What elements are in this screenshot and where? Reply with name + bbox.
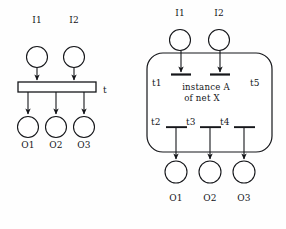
transition-t4-bar: [234, 126, 255, 128]
place-I2-left: [64, 47, 85, 68]
label-place-O3-left: O3: [77, 140, 91, 150]
label-transition-t3: t3: [186, 117, 196, 127]
label-place-O2-left: O2: [49, 140, 63, 150]
label-transition-t2: t2: [151, 117, 161, 127]
label-place-I2-left: I2: [69, 15, 79, 25]
transition-t1-bar: [171, 73, 191, 75]
label-transition-t: t: [103, 85, 107, 95]
transition-t3-bar: [200, 126, 221, 128]
transition-t5-bar: [210, 73, 230, 75]
label-transition-t5: t5: [250, 78, 260, 88]
place-O3-left: [74, 117, 95, 138]
place-O1-left: [18, 117, 39, 138]
subnet-caption-line2: of net X: [184, 93, 220, 104]
label-transition-t1: t1: [152, 78, 162, 88]
place-O3-right: [233, 161, 255, 183]
place-I2-right: [209, 30, 230, 51]
transition-t2-bar: [166, 126, 187, 128]
label-place-I2-right: I2: [214, 8, 224, 18]
figure-canvas: I1 I2 t O1 O2 O3 I1 I2 t1 t5 instance A …: [0, 0, 286, 229]
place-O1-right: [165, 161, 187, 183]
place-I1-left: [27, 47, 48, 68]
label-transition-t4: t4: [220, 117, 230, 127]
left-net-group: [18, 47, 97, 138]
label-place-I1-left: I1: [32, 15, 42, 25]
label-place-O1-left: O1: [21, 140, 35, 150]
label-place-O2-right: O2: [203, 193, 217, 203]
label-place-I1-right: I1: [175, 8, 185, 18]
right-net-group: [147, 30, 272, 184]
transition-t: [18, 82, 96, 92]
subnet-caption-line1: instance A: [182, 82, 230, 93]
place-O2-left: [46, 117, 67, 138]
place-O2-right: [199, 161, 221, 183]
label-place-O3-right: O3: [237, 193, 251, 203]
place-I1-right: [170, 30, 191, 51]
label-place-O1-right: O1: [169, 193, 183, 203]
